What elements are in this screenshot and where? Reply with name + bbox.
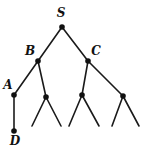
edge-b-a: [14, 61, 38, 95]
node-c2: [120, 93, 126, 99]
leaf-edge: [123, 96, 139, 126]
label-a: A: [2, 78, 12, 92]
edge-b-b2: [38, 61, 46, 97]
node-c1: [79, 92, 85, 98]
label-c: C: [91, 44, 101, 58]
label-s: S: [57, 6, 66, 20]
edge-s-b: [38, 27, 62, 61]
node-labels: SBCAD: [2, 6, 101, 147]
node-b2: [43, 94, 49, 100]
leaf-edge: [112, 96, 123, 126]
leaf-stubs: [32, 95, 139, 126]
leaf-edge: [69, 95, 82, 126]
node-d: [11, 128, 17, 134]
edge-s-c: [62, 27, 88, 61]
node-s: [59, 24, 65, 30]
label-b: B: [24, 44, 35, 58]
node-a: [11, 92, 17, 98]
node-c: [85, 58, 91, 64]
edge-c-c2: [88, 61, 123, 96]
leaf-edge: [32, 97, 46, 126]
leaf-edge: [82, 95, 99, 126]
tree-diagram: SBCAD: [0, 0, 144, 147]
tree-nodes: [11, 24, 126, 134]
label-d: D: [9, 134, 21, 147]
tree-edges: [14, 27, 123, 131]
node-b: [35, 58, 41, 64]
edge-c-c1: [82, 61, 88, 95]
leaf-edge: [46, 97, 61, 126]
